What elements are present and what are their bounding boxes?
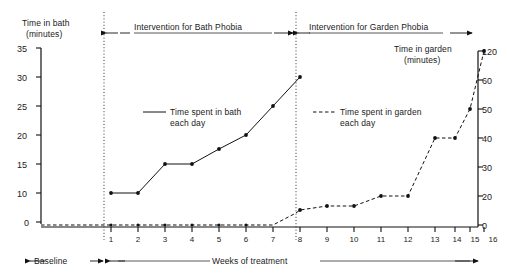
data-point-bath-w1 [109, 191, 113, 195]
data-point-garden-w2 [136, 223, 139, 226]
data-point-bath-w7 [271, 104, 275, 108]
data-point-bath-w5 [217, 147, 221, 151]
data-point-garden-w1 [109, 223, 112, 226]
data-point-garden-w8 [325, 204, 329, 208]
data-point-garden-w7 [298, 208, 302, 212]
data-point-garden-w4 [190, 223, 193, 226]
data-point-garden-w3 [163, 223, 166, 226]
y-axis-left [36, 48, 41, 224]
data-point-garden-w15 [482, 49, 486, 53]
data-point-bath-w6 [244, 133, 248, 137]
series-garden [41, 49, 486, 227]
chart-canvas [0, 0, 507, 276]
y-axis-right [478, 51, 483, 227]
series-bath [109, 75, 302, 195]
data-point-garden-w13 [453, 136, 457, 140]
data-point-bath-w3 [163, 162, 167, 166]
data-point-bath-w8 [298, 75, 302, 79]
data-point-garden-w10 [379, 194, 383, 198]
x-axis [41, 227, 484, 232]
data-point-garden-w12 [433, 136, 437, 140]
data-point-garden-w5 [217, 223, 220, 226]
data-point-garden-w9 [352, 204, 356, 208]
data-point-bath-w2 [136, 191, 140, 195]
chart-figure: Time in bath (minutes) Time in garden (m… [0, 0, 507, 276]
data-point-garden-w6 [244, 223, 247, 226]
data-point-garden-w11 [406, 194, 410, 198]
data-point-garden-w14 [468, 107, 472, 111]
data-point-bath-w4 [190, 162, 194, 166]
